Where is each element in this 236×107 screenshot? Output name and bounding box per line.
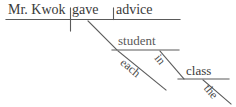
sentence-diagram: Mr. Kwok gave advice student each in cla…	[0, 0, 236, 107]
word-verb: gave	[72, 3, 98, 17]
word-prepositional-object: class	[186, 64, 211, 77]
word-direct-object: advice	[116, 3, 153, 17]
word-indirect-object: student	[118, 34, 156, 47]
slant-indirect-object	[88, 21, 117, 50]
word-subject: Mr. Kwok	[8, 3, 66, 17]
